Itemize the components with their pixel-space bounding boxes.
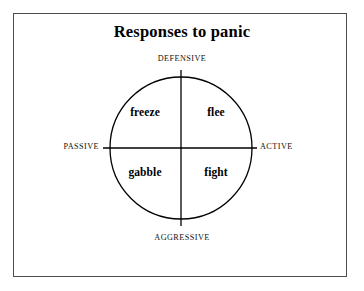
axis-label-aggressive: AGGRESSIVE [0,233,364,243]
quadrant-label-fight: fight [184,166,248,179]
quadrant-label-flee: flee [184,106,248,119]
quadrant-label-gabble: gabble [111,166,179,179]
axis-label-active: ACTIVE [260,142,350,152]
axis-label-defensive: DEFENSIVE [0,54,364,64]
axis-label-passive: PASSIVE [0,142,99,152]
figure-root: Responses to panic DEFENSIVE AGGRESSIVE … [0,0,364,291]
quadrant-label-freeze: freeze [111,106,179,119]
